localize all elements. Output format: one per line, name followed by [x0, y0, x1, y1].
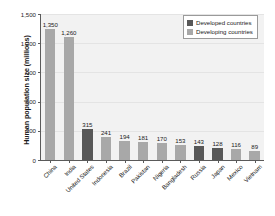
bar-value-label: 315	[82, 121, 92, 128]
bar-value-label: 153	[175, 137, 185, 144]
bar-value-label: 128	[212, 140, 222, 147]
x-axis-tick-mark	[87, 160, 88, 163]
bar-slot: 194	[115, 14, 134, 160]
x-axis-tick-mark	[199, 160, 200, 163]
x-axis-tick-mark	[218, 160, 219, 163]
bar[interactable]: 89	[249, 151, 259, 160]
legend-label: Developed countries	[196, 19, 252, 26]
bar-slot: 170	[153, 14, 172, 160]
bar-value-label: 1,350	[43, 21, 58, 28]
bar-value-label: 170	[157, 135, 167, 142]
x-axis-tick-mark	[180, 160, 181, 163]
bar[interactable]: 315	[82, 129, 92, 160]
y-axis-title: Human population size (millions)	[23, 15, 31, 165]
x-axis-tick-mark	[255, 160, 256, 163]
bar-slot: 241	[97, 14, 116, 160]
bar[interactable]: 143	[194, 146, 204, 160]
bar[interactable]: 241	[101, 137, 111, 160]
y-axis-tick-label: 1,500	[0, 11, 36, 18]
x-axis-tick-mark	[106, 160, 107, 163]
bar-value-label: 143	[194, 138, 204, 145]
y-axis-tick-label: 300	[0, 127, 36, 134]
bar[interactable]: 128	[212, 148, 222, 160]
bar-slot: 1,350	[41, 14, 60, 160]
bar[interactable]: 170	[157, 143, 167, 160]
y-axis-tick-label: 1,200	[0, 40, 36, 47]
bar-value-label: 241	[101, 129, 111, 136]
x-axis-tick-mark	[69, 160, 70, 163]
bar[interactable]: 153	[175, 145, 185, 160]
bar[interactable]: 194	[119, 141, 129, 160]
legend-item-developed[interactable]: Developed countries	[187, 19, 253, 26]
x-axis-tick-mark	[50, 160, 51, 163]
x-axis-tick-mark	[236, 160, 237, 163]
bar[interactable]: 116	[231, 149, 241, 160]
y-axis-tick-mark	[38, 160, 41, 161]
y-axis-tick-label: 900	[0, 69, 36, 76]
y-axis-tick-label: 0	[0, 157, 36, 164]
bar-value-label: 181	[138, 134, 148, 141]
chart-legend: Developed countriesDeveloping countries	[183, 15, 258, 39]
bar-value-label: 194	[120, 133, 130, 140]
legend-item-developing[interactable]: Developing countries	[187, 28, 253, 35]
x-axis-tick-mark	[125, 160, 126, 163]
bar-slot: 315	[78, 14, 97, 160]
bar-chart-figure: Human population size (millions) 0300600…	[0, 0, 275, 216]
bar[interactable]: 181	[138, 142, 148, 160]
bar[interactable]: 1,350	[45, 29, 55, 160]
bar-slot: 1,260	[60, 14, 79, 160]
x-axis-line	[40, 160, 264, 161]
legend-swatch-icon	[187, 29, 193, 35]
bar-slot: 181	[134, 14, 153, 160]
x-axis-tick-mark	[162, 160, 163, 163]
bar-value-label: 1,260	[61, 29, 76, 36]
legend-swatch-icon	[187, 20, 193, 26]
y-axis-tick-label: 600	[0, 98, 36, 105]
legend-label: Developing countries	[196, 28, 253, 35]
bar-value-label: 116	[231, 141, 241, 148]
x-axis-tick-mark	[143, 160, 144, 163]
bar-value-label: 89	[251, 143, 258, 150]
bar[interactable]: 1,260	[64, 37, 74, 160]
